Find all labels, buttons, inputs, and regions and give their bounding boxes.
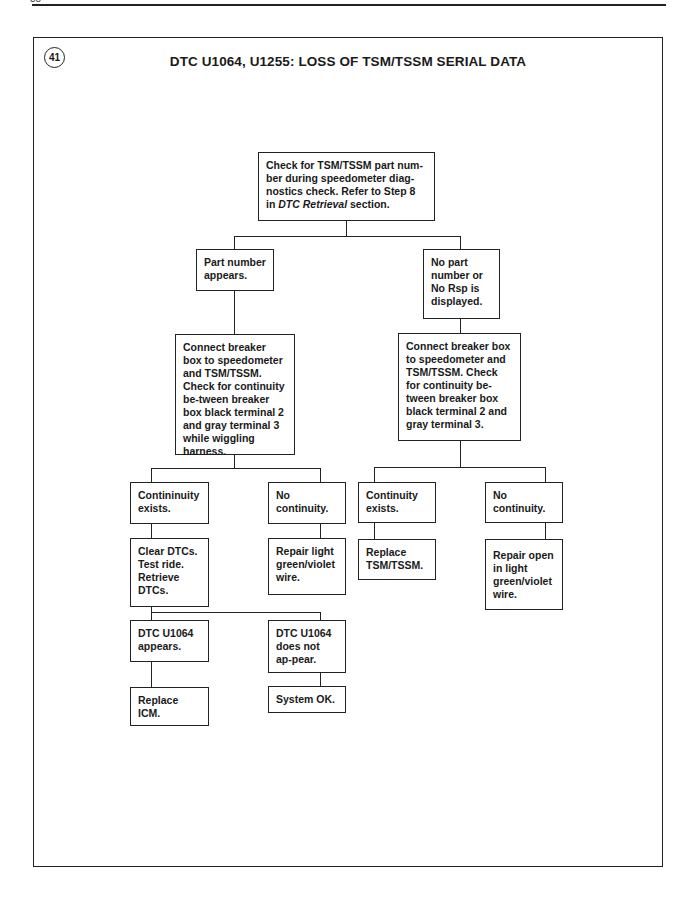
right-yes-condition-box: Continuity exists.	[358, 482, 436, 523]
connector	[151, 612, 321, 613]
replace-icm-text: Replace ICM.	[138, 694, 178, 719]
connector	[320, 672, 321, 687]
right-test-box: Connect breaker box to speedometer and T…	[398, 333, 521, 441]
header-rule	[32, 4, 666, 6]
connector	[151, 468, 321, 469]
repair-open-text: Repair open in light green/violet wire.	[493, 549, 554, 600]
left-test-text: Connect breaker box to speedometer and T…	[183, 341, 285, 457]
connector	[151, 523, 152, 539]
right-test-text: Connect breaker box to speedometer and T…	[406, 340, 510, 430]
start-step-text-end: section.	[347, 198, 390, 210]
connector	[346, 220, 347, 237]
connector	[234, 236, 461, 237]
connector	[545, 522, 546, 540]
connector	[151, 606, 152, 621]
diagram-title: DTC U1064, U1255: LOSS OF TSM/TSSM SERIA…	[33, 54, 663, 69]
left-no-condition-text: No continuity.	[276, 489, 328, 514]
right-yes-condition-text: Continuity exists.	[366, 489, 418, 514]
right-no-condition-text: No continuity.	[493, 489, 545, 514]
outcome-appears-text: DTC U1064 appears.	[138, 627, 193, 652]
start-step-italic: DTC Retrieval	[278, 198, 347, 210]
connector	[545, 467, 546, 482]
outcome-appears-box: DTC U1064 appears.	[130, 620, 209, 662]
left-yes-action-text: Clear DTCs. Test ride. Retrieve DTCs.	[138, 545, 198, 596]
left-yes-condition-box: Contininuity exists.	[130, 482, 209, 524]
left-no-action-text: Repair light green/violet wire.	[276, 545, 335, 583]
connector	[234, 236, 235, 250]
system-ok-box: System OK.	[268, 686, 346, 713]
start-step-box: Check for TSM/TSSM part num-ber during s…	[258, 152, 435, 221]
connector	[320, 523, 321, 539]
connector	[151, 468, 152, 482]
connector	[234, 290, 235, 335]
left-condition-text: Part number appears.	[204, 256, 266, 281]
connector	[320, 468, 321, 482]
right-condition-box: No part number or No Rsp is displayed.	[423, 249, 500, 319]
left-no-action-box: Repair light green/violet wire.	[268, 538, 346, 595]
left-condition-box: Part number appears.	[196, 249, 274, 291]
connector	[460, 440, 461, 468]
left-test-box: Connect breaker box to speedometer and T…	[175, 334, 295, 455]
connector	[374, 522, 375, 540]
connector	[151, 661, 152, 688]
outcome-not-appear-text: DTC U1064 does not ap-pear.	[276, 627, 331, 665]
repair-open-box: Repair open in light green/violet wire.	[485, 539, 563, 610]
replace-tsm-text: Replace TSM/TSSM.	[366, 546, 423, 571]
right-no-condition-box: No continuity.	[485, 482, 563, 523]
connector	[460, 318, 461, 334]
connector	[234, 454, 235, 469]
right-condition-text: No part number or No Rsp is displayed.	[431, 256, 483, 307]
system-ok-text: System OK.	[276, 693, 335, 705]
replace-icm-box: Replace ICM.	[130, 687, 209, 726]
connector	[374, 467, 546, 468]
left-no-condition-box: No continuity.	[268, 482, 346, 524]
outcome-not-appear-box: DTC U1064 does not ap-pear.	[268, 620, 346, 673]
connector	[460, 236, 461, 250]
replace-tsm-box: Replace TSM/TSSM.	[358, 539, 436, 580]
connector	[374, 467, 375, 482]
left-yes-condition-text: Contininuity exists.	[138, 489, 199, 514]
left-yes-action-box: Clear DTCs. Test ride. Retrieve DTCs.	[130, 538, 209, 607]
